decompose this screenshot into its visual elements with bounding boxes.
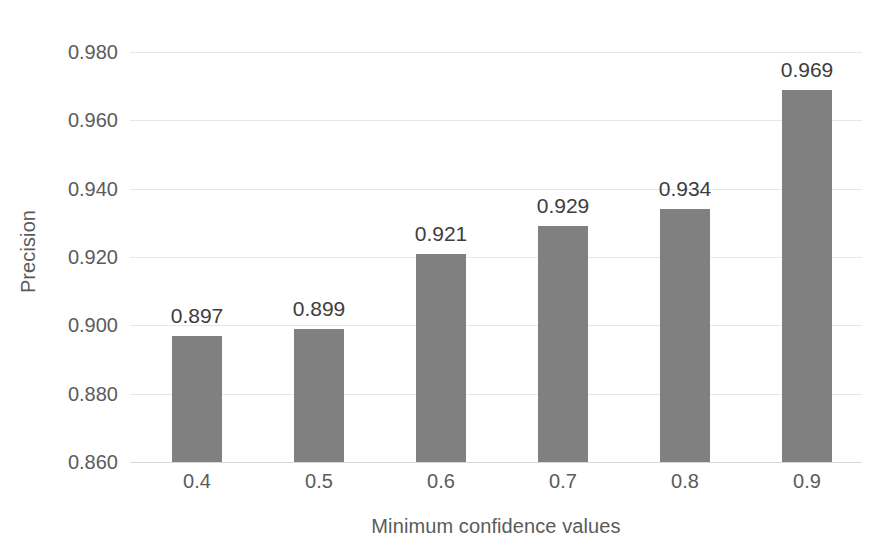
y-axis-tick-label: 0.880 [8, 382, 118, 405]
x-axis-tick-label: 0.5 [305, 470, 333, 493]
gridline [130, 394, 862, 395]
x-axis-baseline [130, 462, 862, 463]
bar[interactable] [538, 226, 588, 462]
x-axis-tick-label: 0.7 [549, 470, 577, 493]
x-axis-tick-label: 0.6 [427, 470, 455, 493]
x-axis-title: Minimum confidence values [130, 515, 862, 538]
bar-value-label: 0.921 [415, 222, 468, 246]
bar-value-label: 0.899 [293, 297, 346, 321]
y-axis-tick-label: 0.860 [8, 451, 118, 474]
bar[interactable] [294, 329, 344, 462]
bar-value-label: 0.929 [537, 194, 590, 218]
x-axis-tick-label: 0.9 [793, 470, 821, 493]
bar[interactable] [416, 254, 466, 462]
bar-value-label: 0.897 [171, 304, 224, 328]
y-axis-tick-label: 0.900 [8, 314, 118, 337]
gridline [130, 325, 862, 326]
y-axis-tick-label: 0.960 [8, 109, 118, 132]
bar[interactable] [172, 336, 222, 462]
y-axis-tick-labels: 0.9800.9600.9400.9200.9000.8800.860 [0, 52, 118, 462]
y-axis-tick-label: 0.920 [8, 246, 118, 269]
gridline [130, 120, 862, 121]
bar-value-label: 0.934 [659, 177, 712, 201]
y-axis-tick-label: 0.980 [8, 41, 118, 64]
gridline [130, 52, 862, 53]
bar-chart: Precision 0.9800.9600.9400.9200.9000.880… [0, 0, 891, 552]
x-axis-tick-label: 0.4 [183, 470, 211, 493]
gridline [130, 189, 862, 190]
y-axis-tick-label: 0.940 [8, 177, 118, 200]
plot-area [130, 52, 862, 462]
bar[interactable] [782, 90, 832, 462]
x-axis-tick-label: 0.8 [671, 470, 699, 493]
bar[interactable] [660, 209, 710, 462]
gridline [130, 257, 862, 258]
bar-value-label: 0.969 [781, 58, 834, 82]
